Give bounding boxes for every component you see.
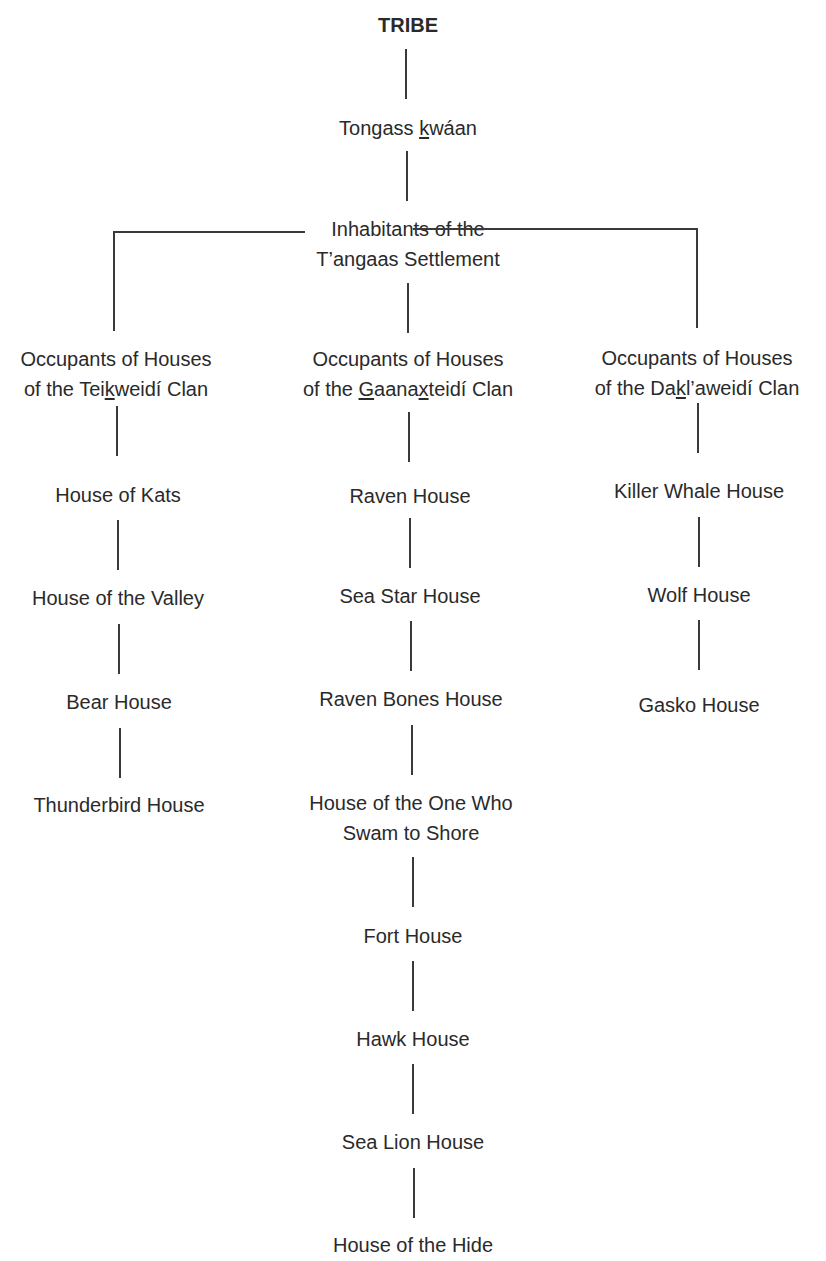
house-node: Killer Whale House: [614, 476, 784, 506]
clan-daklaweidi-line2: of the Dakl’aweidí Clan: [595, 373, 800, 403]
bracket-left-vertical: [113, 231, 115, 331]
kwaan-pre: Tongass: [339, 117, 419, 139]
connector-teikweidi-3: [118, 624, 120, 674]
clan-gaanaxteidi-line2: of the Gaanaxteidí Clan: [303, 374, 513, 404]
house-node: House of the Valley: [32, 583, 204, 613]
bracket-right-vertical: [696, 228, 698, 328]
house-node: Sea Lion House: [342, 1127, 484, 1157]
clan-teikweidi-line1: Occupants of Houses: [20, 344, 211, 374]
house-node: Wolf House: [647, 580, 750, 610]
connector-root-to-kwaan: [405, 49, 407, 99]
house-node: Thunderbird House: [33, 790, 204, 820]
connector-settlement-to-middle-clan: [407, 283, 409, 333]
clan-gaanaxteidi-line1: Occupants of Houses: [303, 344, 513, 374]
connector-gaanaxteidi-5: [412, 857, 414, 907]
house-node: Sea Star House: [339, 581, 480, 611]
house-node: House of the One Who Swam to Shore: [309, 788, 512, 848]
node-settlement: Inhabitants of the T’angaas Settlement: [316, 214, 499, 274]
bracket-right-horizontal: [413, 228, 698, 230]
house-node: Raven Bones House: [319, 684, 502, 714]
house-node: House of Kats: [55, 480, 181, 510]
root-label: TRIBE: [378, 14, 438, 36]
house-node: House of the Hide: [333, 1230, 493, 1260]
clan-node-gaanaxteidi: Occupants of Houses of the Gaanaxteidí C…: [303, 344, 513, 404]
connector-daklaweidi-1: [697, 403, 699, 453]
kwaan-post: wáan: [429, 117, 477, 139]
connector-gaanaxteidi-7: [412, 1064, 414, 1114]
house-node: Bear House: [66, 687, 172, 717]
connector-gaanaxteidi-4: [411, 725, 413, 775]
clan-teikweidi-line2: of the Teikweidí Clan: [20, 374, 211, 404]
bracket-left-horizontal: [113, 231, 305, 233]
connector-kwaan-to-settlement: [406, 151, 408, 201]
clan-daklaweidi-line1: Occupants of Houses: [595, 343, 800, 373]
connector-teikweidi-1: [116, 406, 118, 456]
clan-node-teikweidi: Occupants of Houses of the Teikweidí Cla…: [20, 344, 211, 404]
settlement-line2: T’angaas Settlement: [316, 244, 499, 274]
connector-teikweidi-4: [119, 728, 121, 778]
connector-teikweidi-2: [117, 520, 119, 570]
node-tongass-kwaan: Tongass kwáan: [339, 113, 477, 143]
kwaan-underlined: k: [419, 117, 429, 139]
root-node-tribe: TRIBE: [378, 10, 438, 40]
connector-gaanaxteidi-3: [410, 621, 412, 671]
house-node: Raven House: [349, 481, 470, 511]
connector-daklaweidi-3: [698, 620, 700, 670]
house-node: Fort House: [364, 921, 463, 951]
connector-gaanaxteidi-2: [409, 518, 411, 568]
connector-gaanaxteidi-6: [412, 961, 414, 1011]
connector-gaanaxteidi-1: [408, 412, 410, 462]
connector-daklaweidi-2: [698, 517, 700, 567]
connector-gaanaxteidi-8: [413, 1168, 415, 1218]
clan-node-daklaweidi: Occupants of Houses of the Dakl’aweidí C…: [595, 343, 800, 403]
house-node: Gasko House: [638, 690, 759, 720]
house-node: Hawk House: [356, 1024, 469, 1054]
